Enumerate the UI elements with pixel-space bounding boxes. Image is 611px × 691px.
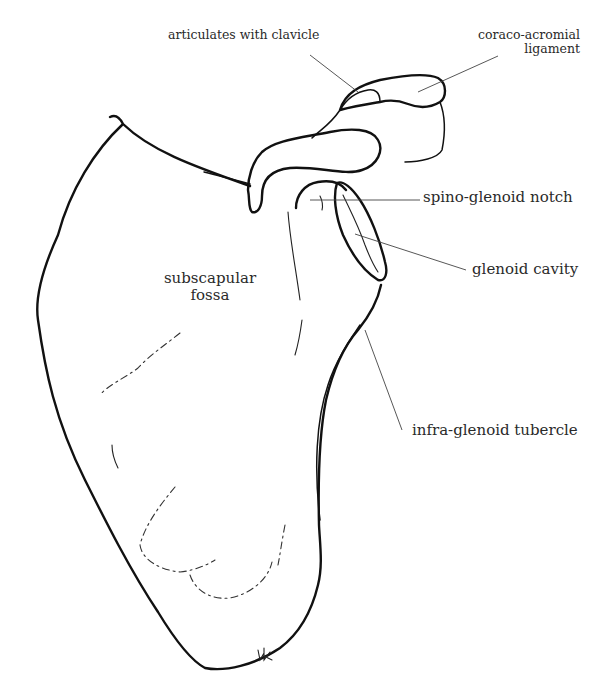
label-glenoid-cavity: glenoid cavity: [472, 261, 578, 278]
scapula-diagram: articulates with clavicle coraco-acromia…: [0, 0, 611, 691]
neck-contour-2: [320, 196, 322, 210]
label-subscapular-line2: fossa: [160, 287, 260, 304]
leader-glenoid-cavity: [355, 234, 466, 270]
inferior-angle-ridge: [140, 487, 215, 572]
label-subscapular-fossa: subscapular fossa: [160, 270, 260, 305]
glenoid-cavity-outline: [335, 182, 386, 280]
acromion-process: [340, 75, 445, 110]
label-infra-glenoid-tubercle: infra-glenoid tubercle: [412, 422, 578, 439]
inferior-angle-ridge-2: [190, 562, 272, 598]
label-articulates-with-clavicle: articulates with clavicle: [168, 28, 319, 42]
leader-infra-glenoid-tubercle: [365, 330, 402, 430]
label-coraco-acromial-ligament: coraco-acromial ligament: [468, 28, 580, 57]
label-coraco-acromial-line2: ligament: [468, 42, 580, 56]
glenoid-inner: [343, 195, 378, 272]
fossa-ridge-upper: [100, 333, 180, 395]
scapula-outline: [37, 116, 381, 669]
neck-contour: [288, 212, 302, 355]
label-coraco-acromial-line1: coraco-acromial: [468, 28, 580, 42]
scapular-neck: [296, 181, 346, 208]
leader-articulates-with-clavicle: [310, 55, 358, 92]
fossa-mark-right: [278, 525, 285, 565]
superior-border: [204, 172, 250, 184]
leader-coraco-acromial-ligament: [418, 56, 498, 92]
acromion-lower-edge: [405, 102, 444, 162]
scapula-drawing: [0, 0, 611, 691]
label-subscapular-line1: subscapular: [160, 270, 260, 287]
fossa-mark-left: [112, 445, 118, 468]
label-spino-glenoid-notch: spino-glenoid notch: [423, 189, 573, 206]
